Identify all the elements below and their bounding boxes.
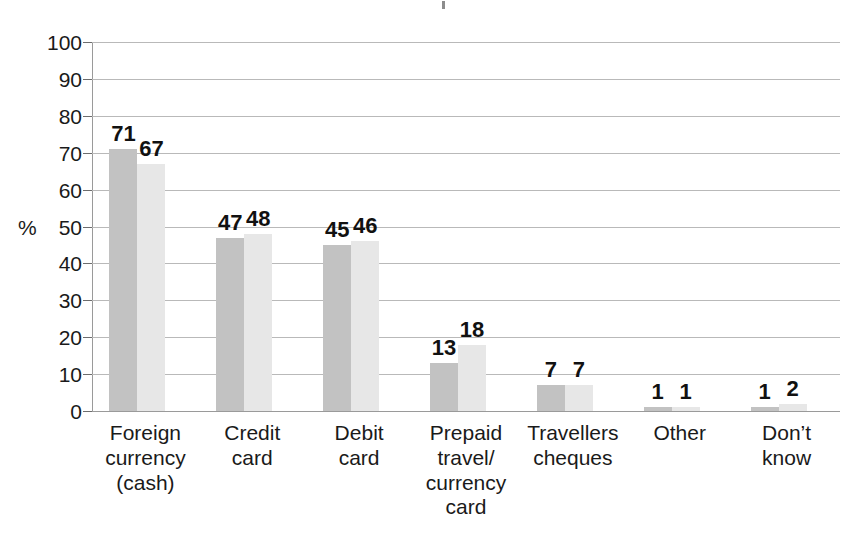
gridline [92, 300, 840, 301]
gridline [92, 42, 840, 43]
bar [216, 238, 244, 411]
y-axis-tick-label: 40 [20, 253, 82, 274]
bar-value-label: 67 [126, 138, 176, 160]
y-axis-unit-label: % [18, 217, 37, 238]
bar-chart: 0102030405060708090100% 7167474845461318… [0, 0, 867, 544]
y-axis-tick-label: 60 [20, 180, 82, 201]
y-axis-tick-label: 20 [20, 327, 82, 348]
bar [644, 407, 672, 411]
y-axis-tick-label: 30 [20, 290, 82, 311]
y-axis-tick-label: 90 [20, 69, 82, 90]
gridline [92, 227, 840, 228]
gridline [92, 116, 840, 117]
gridline [92, 263, 840, 264]
axis-baseline [92, 411, 840, 412]
y-axis-tick [83, 263, 92, 264]
bar [537, 385, 565, 411]
y-axis-tick-label: 100 [20, 32, 82, 53]
y-axis-tick [83, 227, 92, 228]
bar [672, 407, 700, 411]
bar-value-label: 18 [447, 319, 497, 341]
y-axis-labels: 0102030405060708090100% [0, 0, 84, 544]
page-artifact-mark [442, 1, 445, 9]
y-axis-tick [83, 411, 92, 412]
bar [244, 234, 272, 411]
y-axis-tick [83, 300, 92, 301]
y-axis-tick [83, 116, 92, 117]
y-axis-tick [83, 153, 92, 154]
gridline [92, 153, 840, 154]
bar-value-label: 46 [340, 215, 390, 237]
bar [109, 149, 137, 411]
bar [779, 404, 807, 411]
gridline [92, 79, 840, 80]
bar [458, 345, 486, 411]
plot-area: 7167474845461318771112 [92, 42, 840, 411]
y-axis-tick-label: 10 [20, 364, 82, 385]
bar [137, 164, 165, 411]
y-axis-tick-label: 80 [20, 106, 82, 127]
y-axis-tick [83, 79, 92, 80]
gridline [92, 190, 840, 191]
bar [323, 245, 351, 411]
bar-value-label: 1 [661, 381, 711, 403]
y-axis-tick [83, 337, 92, 338]
x-axis-category-label: Don’t know [721, 421, 852, 471]
bar [751, 407, 779, 411]
y-axis-tick [83, 374, 92, 375]
bar-value-label: 7 [554, 359, 604, 381]
bar [430, 363, 458, 411]
y-axis-tick [83, 42, 92, 43]
y-axis-tick-label: 0 [20, 401, 82, 422]
y-axis-tick-label: 70 [20, 143, 82, 164]
bar [351, 241, 379, 411]
bar-value-label: 2 [768, 378, 818, 400]
bar [565, 385, 593, 411]
bar-value-label: 48 [233, 208, 283, 230]
y-axis-tick [83, 190, 92, 191]
